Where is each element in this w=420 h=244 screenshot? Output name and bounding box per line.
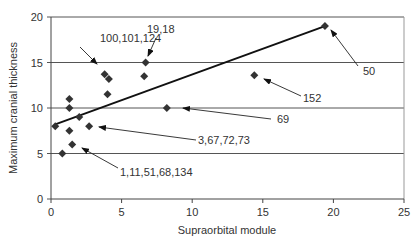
y-tick-label: 20 <box>31 11 43 23</box>
annotation-label: 19,18 <box>147 23 175 35</box>
data-point-diamond-icon <box>163 104 171 112</box>
axes: 051015200510152025 <box>31 11 410 218</box>
data-point-diamond-icon <box>103 90 111 98</box>
annotations: 100,101,12419,1850152693,67,72,731,11,51… <box>80 23 375 178</box>
trendline <box>55 26 325 124</box>
x-tick-label: 15 <box>257 206 269 218</box>
x-tick-label: 25 <box>398 206 410 218</box>
x-tick-label: 5 <box>119 206 125 218</box>
data-point-diamond-icon <box>68 140 76 148</box>
y-tick-label: 10 <box>31 102 43 114</box>
y-tick-label: 0 <box>37 193 43 205</box>
annotation-label: 69 <box>277 113 289 125</box>
x-tick-label: 10 <box>186 206 198 218</box>
annotation-arrow-icon <box>80 47 97 64</box>
annotation-label: 152 <box>303 92 321 104</box>
x-tick-label: 0 <box>48 206 54 218</box>
annotation-arrow-icon <box>331 30 358 66</box>
x-tick-label: 20 <box>327 206 339 218</box>
scatter-chart: 051015200510152025 100,101,12419,1850152… <box>0 0 420 244</box>
annotation-arrow-icon <box>264 79 301 96</box>
data-point-diamond-icon <box>321 22 329 30</box>
annotation-arrow-icon <box>82 148 118 168</box>
data-point-diamond-icon <box>58 150 66 158</box>
x-axis-label: Supraorbital module <box>178 224 276 236</box>
gridlines <box>51 17 404 199</box>
data-point-diamond-icon <box>85 122 93 130</box>
data-point-diamond-icon <box>65 127 73 135</box>
data-point-diamond-icon <box>142 59 150 67</box>
data-point-diamond-icon <box>65 104 73 112</box>
annotation-arrow-icon <box>183 108 271 119</box>
annotation-label: 3,67,72,73 <box>198 134 250 146</box>
annotation-arrow-icon <box>99 127 196 140</box>
data-point-diamond-icon <box>250 71 258 79</box>
annotation-label: 1,11,51,68,134 <box>120 166 193 178</box>
regression-line <box>55 26 325 124</box>
y-axis-label: Maximum cranial thickness <box>7 41 19 174</box>
y-tick-label: 5 <box>37 148 43 160</box>
data-point-diamond-icon <box>65 95 73 103</box>
y-tick-label: 15 <box>31 57 43 69</box>
annotation-label: 50 <box>363 65 375 77</box>
data-point-diamond-icon <box>140 72 148 80</box>
